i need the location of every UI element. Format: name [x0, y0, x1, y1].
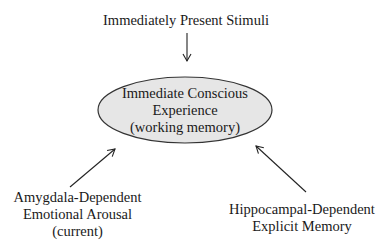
right-node-line-2: Explicit Memory	[222, 218, 382, 235]
top-node-line-1: Immediately Present Stimuli	[86, 12, 286, 29]
left-node-line-3: (current)	[0, 223, 155, 240]
left-node-label: Amygdala-Dependent Emotional Arousal (cu…	[0, 189, 155, 240]
right-node-label: Hippocampal-Dependent Explicit Memory	[222, 201, 382, 235]
left-node-line-1: Amygdala-Dependent	[0, 189, 155, 206]
arrow-left-to-center	[70, 149, 115, 187]
arrow-right-to-center	[256, 146, 306, 192]
right-node-line-1: Hippocampal-Dependent	[222, 201, 382, 218]
center-node-line-2: Experience	[95, 102, 275, 119]
diagram-canvas: Immediately Present Stimuli Immediate Co…	[0, 0, 388, 247]
center-node-line-3: (working memory)	[95, 119, 275, 136]
top-node-label: Immediately Present Stimuli	[86, 12, 286, 29]
left-node-line-2: Emotional Arousal	[0, 206, 155, 223]
center-node-label: Immediate Conscious Experience (working …	[95, 85, 275, 136]
center-node-line-1: Immediate Conscious	[95, 85, 275, 102]
